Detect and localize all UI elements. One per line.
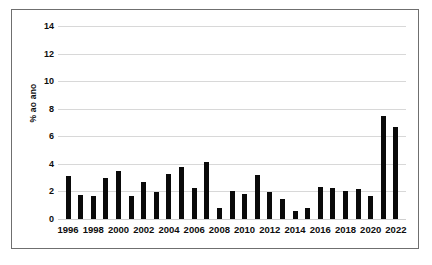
bar <box>204 162 209 219</box>
bar <box>78 195 83 219</box>
gridline <box>58 109 406 110</box>
bar <box>141 182 146 219</box>
gridline <box>58 54 406 55</box>
bar <box>393 127 398 219</box>
gridline <box>58 26 406 27</box>
y-tick-label: 8 <box>30 104 54 114</box>
bar <box>154 192 159 219</box>
x-tick-label: 1996 <box>58 224 79 235</box>
x-axis-baseline <box>58 219 406 220</box>
y-tick-label: 6 <box>30 131 54 141</box>
plot-area <box>58 26 406 219</box>
y-axis-tick-labels: 02468101214 <box>28 26 54 219</box>
gridline <box>58 81 406 82</box>
x-tick-label: 2006 <box>184 224 205 235</box>
bar <box>217 208 222 219</box>
x-tick-label: 2004 <box>158 224 179 235</box>
bar <box>242 194 247 219</box>
x-tick-label: 2012 <box>259 224 280 235</box>
bar <box>129 196 134 219</box>
y-tick-label: 14 <box>30 21 54 31</box>
x-tick-label: 2008 <box>209 224 230 235</box>
bar <box>318 187 323 219</box>
bar <box>343 191 348 219</box>
y-tick-label: 2 <box>30 186 54 196</box>
x-tick-label: 2002 <box>133 224 154 235</box>
x-tick-label: 2014 <box>284 224 305 235</box>
bar <box>255 175 260 219</box>
bar <box>305 208 310 219</box>
bar <box>179 167 184 219</box>
bar <box>293 211 298 219</box>
gridline <box>58 136 406 137</box>
bar <box>166 174 171 219</box>
bar <box>103 178 108 219</box>
x-tick-label: 2020 <box>360 224 381 235</box>
y-tick-label: 4 <box>30 159 54 169</box>
x-tick-label: 2016 <box>310 224 331 235</box>
x-tick-label: 2022 <box>385 224 406 235</box>
bar <box>91 196 96 219</box>
bar <box>66 176 71 219</box>
bar <box>267 192 272 219</box>
bar <box>356 189 361 219</box>
x-tick-label: 2010 <box>234 224 255 235</box>
bar <box>368 196 373 219</box>
bar <box>230 191 235 219</box>
bar <box>280 199 285 219</box>
x-axis-tick-labels: 1996199820002002200420062008201020122014… <box>58 224 406 246</box>
y-tick-label: 10 <box>30 76 54 86</box>
bar <box>192 188 197 219</box>
bar <box>381 116 386 219</box>
x-tick-label: 2000 <box>108 224 129 235</box>
bar <box>330 188 335 219</box>
x-tick-label: 1998 <box>83 224 104 235</box>
y-tick-label: 0 <box>30 214 54 224</box>
y-tick-label: 12 <box>30 49 54 59</box>
gridline <box>58 164 406 165</box>
bar-chart-figure: % ao ano 02468101214 1996199820002002200… <box>0 0 432 265</box>
x-tick-label: 2018 <box>335 224 356 235</box>
bar <box>116 171 121 219</box>
